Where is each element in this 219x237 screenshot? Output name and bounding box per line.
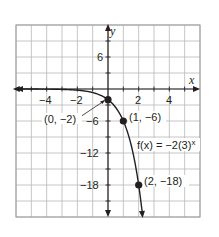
y-tick-label: −6 — [86, 115, 99, 127]
y-tick-label: 6 — [97, 51, 103, 63]
data-point — [120, 117, 127, 124]
y-axis-label: y — [109, 24, 116, 38]
x-tick-label: 4 — [166, 94, 172, 106]
point-label-1-neg6: (1, −6) — [129, 111, 161, 123]
function-label: f(x) = −2(3)x — [137, 138, 195, 151]
y-tick-label: −12 — [80, 147, 99, 159]
y-tick-label: −18 — [80, 179, 99, 191]
function-label-base: f(x) = −2(3) — [137, 139, 191, 151]
x-tick-label: −2 — [70, 94, 83, 106]
function-label-exponent: x — [191, 138, 195, 147]
x-tick-label: −4 — [39, 94, 52, 106]
point-label-2-neg18: (2, −18) — [144, 175, 182, 187]
point-label-0-neg2: (0, −2) — [44, 113, 76, 125]
x-axis-label: x — [188, 73, 195, 87]
x-tick-label: 2 — [135, 94, 141, 106]
exponential-function-graph: x y −4 −2 2 4 6 −6 −12 −18 (0, −2) (1, −… — [0, 0, 219, 237]
data-point — [135, 181, 142, 188]
y-axis-arrow-down — [105, 210, 111, 217]
data-point — [104, 96, 111, 103]
